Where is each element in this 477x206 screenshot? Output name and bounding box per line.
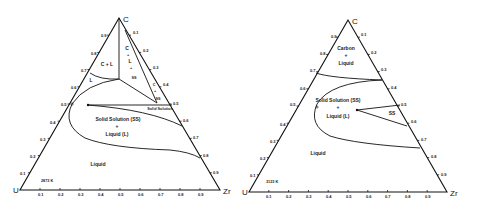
svg-text:0.9: 0.9 (198, 192, 204, 197)
svg-text:0.9: 0.9 (425, 194, 431, 199)
region-solid-solution: Solid Solution (147, 107, 173, 111)
svg-text:0.6: 0.6 (138, 192, 144, 197)
ternary-diagram-3123k: 0.1 0.2 0.3 0.4 0.5 0.6 0.7 0.8 0.9 0.1 … (242, 17, 458, 199)
svg-text:0.8: 0.8 (91, 51, 97, 56)
svg-text:0.2: 0.2 (260, 156, 266, 161)
svg-text:0.7: 0.7 (421, 137, 427, 142)
svg-text:0.7: 0.7 (385, 194, 391, 199)
region-ss-plus-l-line3: Liquid (L) (327, 113, 350, 119)
svg-text:0.6: 0.6 (366, 194, 372, 199)
svg-text:0.9: 0.9 (331, 34, 337, 39)
svg-text:0.3: 0.3 (306, 194, 312, 199)
svg-text:0.3: 0.3 (270, 139, 276, 144)
svg-text:0.4: 0.4 (50, 120, 56, 125)
svg-text:0.1: 0.1 (361, 32, 367, 37)
right-axis-labels: 0.1 0.2 0.3 0.4 0.5 0.6 0.7 0.8 0.9 (361, 32, 447, 177)
svg-text:0.1: 0.1 (20, 171, 26, 176)
phase-diagrams: 0.1 0.2 0.3 0.4 0.5 0.6 0.7 0.8 0.9 0.1 … (0, 0, 477, 206)
svg-text:0.2: 0.2 (286, 194, 292, 199)
svg-text:0.4: 0.4 (98, 192, 104, 197)
svg-text:+: + (154, 89, 157, 93)
region-carbon-plus-liquid-line1: Carbon (337, 45, 355, 51)
svg-text:+: + (337, 104, 340, 110)
region-liquid: Liquid (91, 161, 106, 167)
svg-text:0.5: 0.5 (173, 101, 179, 106)
vertex-u-label: U (242, 188, 248, 197)
left-axis-labels: 0.1 0.2 0.3 0.4 0.5 0.6 0.7 0.8 0.9 (250, 34, 337, 178)
triangle-frame (20, 18, 220, 190)
svg-text:0.1: 0.1 (250, 173, 256, 178)
right-axis-labels: 0.1 0.2 0.3 0.4 0.5 0.6 0.7 0.8 0.9 (133, 30, 219, 175)
svg-text:0.4: 0.4 (391, 85, 397, 90)
svg-text:L: L (128, 58, 131, 64)
svg-text:0.5: 0.5 (346, 194, 352, 199)
vertex-zr-label: Zr (223, 187, 231, 196)
svg-text:0.1: 0.1 (38, 192, 44, 197)
region-ss: SS (389, 110, 396, 116)
svg-text:C: C (125, 45, 129, 51)
svg-text:0.6: 0.6 (183, 118, 189, 123)
svg-text:0.5: 0.5 (401, 102, 407, 107)
temperature-label: 3123 K (266, 180, 279, 184)
svg-text:0.1: 0.1 (266, 194, 272, 199)
region-carbon-plus-liquid-line3: Liquid (339, 60, 354, 66)
svg-text:0.6: 0.6 (300, 86, 306, 91)
svg-text:0.8: 0.8 (431, 154, 437, 159)
svg-text:0.9: 0.9 (441, 172, 447, 177)
svg-text:+: + (127, 53, 130, 57)
svg-text:0.4: 0.4 (326, 194, 332, 199)
svg-text:0.8: 0.8 (203, 153, 209, 158)
svg-text:0.5: 0.5 (61, 102, 67, 107)
svg-text:+: + (130, 66, 133, 70)
svg-text:0.3: 0.3 (153, 65, 159, 70)
svg-text:0.1: 0.1 (133, 30, 139, 35)
svg-text:0.8: 0.8 (178, 192, 184, 197)
svg-text:0.8: 0.8 (320, 51, 326, 56)
phase-boundaries (314, 73, 420, 148)
svg-text:0.2: 0.2 (30, 154, 36, 159)
svg-text:0.2: 0.2 (143, 48, 149, 53)
svg-text:0.9: 0.9 (213, 170, 219, 175)
left-axis-labels: 0.1 0.2 0.3 0.4 0.5 0.6 0.7 0.8 0.9 (20, 33, 107, 176)
vertex-c-label: C (123, 15, 129, 24)
vertex-c-label: C (352, 17, 358, 26)
phase-boundaries (69, 18, 200, 158)
svg-text:0.9: 0.9 (101, 33, 107, 38)
region-liquid: Liquid (311, 150, 326, 156)
region-l: L (89, 77, 92, 83)
region-ss-plus-l-line3: Liquid (L) (106, 131, 129, 137)
ternary-diagram-2873k: 0.1 0.2 0.3 0.4 0.5 0.6 0.7 0.8 0.9 0.1 … (13, 15, 231, 197)
svg-text:0.6: 0.6 (71, 85, 77, 90)
svg-text:0.3: 0.3 (40, 137, 46, 142)
bottom-axis-labels: 0.1 0.2 0.3 0.4 0.5 0.6 0.7 0.8 0.9 (38, 192, 204, 197)
svg-text:0.7: 0.7 (81, 68, 87, 73)
svg-text:SS: SS (155, 97, 161, 101)
svg-text:0.5: 0.5 (290, 102, 296, 107)
region-ss-plus-l-line1: Solid Solution (SS) (316, 97, 361, 103)
svg-text:+: + (345, 52, 348, 58)
svg-text:0.7: 0.7 (158, 192, 164, 197)
region-c-plus-l: C + L (101, 61, 113, 67)
vertex-zr-label: Zr (450, 189, 458, 198)
svg-text:0.5: 0.5 (118, 192, 124, 197)
temperature-label: 2873 K (41, 179, 54, 183)
svg-text:+: + (116, 123, 119, 129)
svg-text:0.6: 0.6 (411, 119, 417, 124)
svg-text:0.3: 0.3 (381, 67, 387, 72)
svg-text:0.3: 0.3 (78, 192, 84, 197)
svg-text:SS: SS (131, 76, 137, 80)
svg-text:0.4: 0.4 (163, 82, 169, 87)
svg-text:0.7: 0.7 (310, 68, 316, 73)
bottom-axis-labels: 0.1 0.2 0.3 0.4 0.5 0.6 0.7 0.8 0.9 (266, 194, 431, 199)
svg-text:0.2: 0.2 (58, 192, 64, 197)
region-ss-plus-l-line1: Solid Solution (SS) (96, 116, 141, 122)
svg-text:0.4: 0.4 (280, 122, 286, 127)
svg-text:C: C (153, 83, 156, 87)
svg-text:0.2: 0.2 (371, 50, 377, 55)
svg-text:0.7: 0.7 (193, 135, 199, 140)
svg-text:0.8: 0.8 (405, 194, 411, 199)
vertex-u-label: U (13, 186, 19, 195)
